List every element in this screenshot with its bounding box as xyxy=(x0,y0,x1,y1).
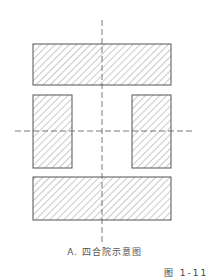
diagram-caption: A. 四合院示意图 xyxy=(0,245,209,258)
figure-label: 图 1-11 xyxy=(164,266,208,279)
east-building xyxy=(132,95,171,168)
west-building xyxy=(33,95,72,168)
